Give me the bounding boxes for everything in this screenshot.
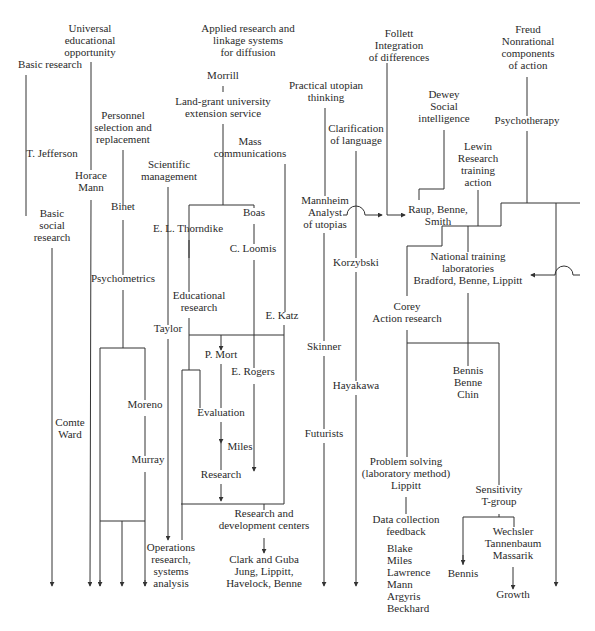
node-operations-research: Operations research, systems analysis — [147, 541, 195, 589]
node-clark-guba: Clark and Guba Jung, Lippitt, Havelock, … — [226, 553, 302, 589]
node-wechsler: Wechsler Tannenbaum Massarik — [485, 525, 542, 561]
node-morrill: Morrill — [207, 69, 239, 81]
node-sensitivity: Sensitivity T-group — [475, 483, 522, 507]
node-skinner: Skinner — [307, 340, 341, 352]
node-dewey: Dewey Social intelligence — [418, 88, 469, 124]
node-horace-mann: Horace Mann — [75, 169, 107, 193]
node-personnel: Personnel selection and replacement — [94, 109, 152, 145]
node-miles-mid: Miles — [227, 440, 252, 452]
node-korzybski: Korzybski — [333, 256, 379, 268]
node-mannheim: Mannheim Analyst of utopias — [301, 194, 349, 230]
node-moreno: Moreno — [128, 398, 163, 410]
node-murray: Murray — [132, 453, 165, 465]
node-hayakawa: Hayakawa — [333, 379, 379, 391]
node-taylor: Taylor — [154, 322, 183, 334]
node-universal-educational-opportunity: Universal educational opportunity — [64, 22, 115, 58]
node-loomis: C. Loomis — [230, 242, 276, 254]
node-blake-list: Blake Miles Lawrence Mann Argyris Beckha… — [387, 542, 430, 614]
node-follett: Follett Integration of differences — [369, 27, 430, 63]
node-freud: Freud Nonrational components of action — [501, 23, 554, 71]
node-research: Research — [201, 468, 241, 480]
node-scientific-mgmt: Scientific management — [141, 158, 197, 182]
node-thorndike: E. L. Thorndike — [153, 222, 223, 234]
node-t-jefferson: T. Jefferson — [26, 147, 78, 159]
node-futurists: Futurists — [305, 427, 344, 439]
node-growth: Growth — [496, 588, 530, 600]
node-problem-solving: Problem solving (laboratory method) Lipp… — [362, 455, 450, 491]
node-binet: Binet — [111, 200, 135, 212]
node-basic-research: Basic research — [18, 58, 82, 70]
diagram-canvas: Universal educational opportunityBasic r… — [0, 0, 595, 631]
node-psychotherapy: Psychotherapy — [495, 114, 560, 126]
node-basic-social: Basic social research — [34, 207, 71, 243]
node-p-mort: P. Mort — [205, 348, 237, 360]
node-raup: Raup, Benne, Smith — [408, 203, 468, 227]
node-evaluation: Evaluation — [197, 406, 245, 418]
node-corey: Corey Action research — [372, 300, 441, 324]
node-e-rogers: E. Rogers — [231, 365, 274, 377]
node-data-collection: Data collection feedback — [373, 513, 440, 537]
node-comte-ward: Comte Ward — [55, 416, 84, 440]
node-rd-centers: Research and development centers — [219, 507, 310, 531]
node-bennis-benne-chin: Bennis Benne Chin — [453, 364, 484, 400]
node-national-training: National training laboratories Bradford,… — [414, 250, 523, 286]
node-e-katz: E. Katz — [266, 309, 299, 321]
node-bennis-leaf: Bennis — [448, 567, 479, 579]
node-lewin: Lewin Research training action — [458, 140, 498, 188]
node-boas: Boas — [243, 206, 265, 218]
node-psychometrics: Psychometrics — [91, 272, 155, 284]
node-mass-comm: Mass communications — [214, 135, 287, 159]
node-applied-research: Applied research and linkage systems for… — [201, 22, 294, 58]
node-educational-research: Educational research — [173, 289, 226, 313]
node-practical-utopian: Practical utopian thinking — [289, 79, 363, 103]
node-clarification: Clarification of language — [328, 122, 384, 146]
node-land-grant: Land-grant university extension service — [175, 95, 271, 119]
